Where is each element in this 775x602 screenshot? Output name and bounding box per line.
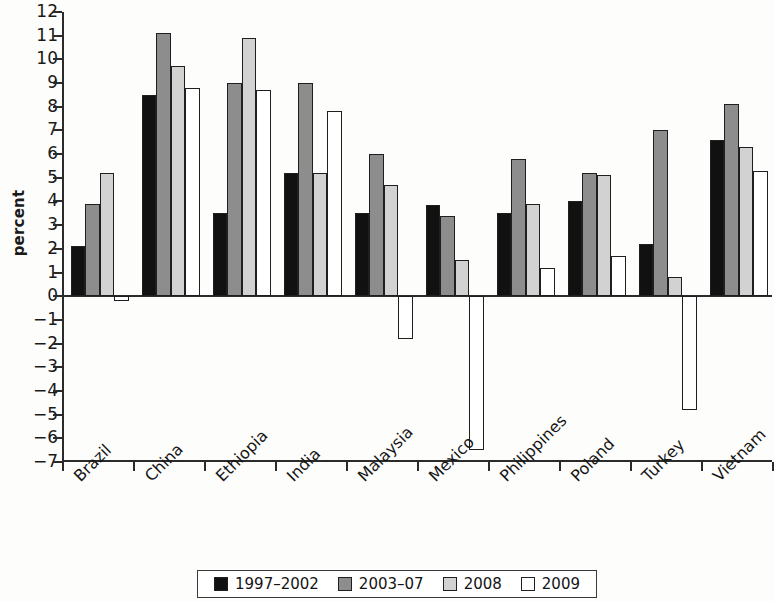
x-tick-mark (701, 462, 703, 471)
bar-group (142, 12, 200, 462)
chart-legend: 1997–20022003–0720082009 (197, 570, 597, 598)
bar (653, 130, 668, 296)
bar (526, 204, 541, 296)
x-tick-mark (204, 462, 206, 471)
bar (242, 38, 257, 296)
legend-item[interactable]: 2009 (521, 575, 580, 593)
bar (85, 204, 100, 296)
bar-group (284, 12, 342, 462)
bar (597, 175, 612, 296)
bar (398, 296, 413, 339)
bar (156, 33, 171, 296)
bar (227, 83, 242, 296)
x-tick-mark (346, 462, 348, 471)
bar (384, 185, 399, 296)
bar (455, 260, 470, 297)
y-tick-mark (53, 200, 62, 202)
bar-group (355, 12, 413, 462)
bar (724, 104, 739, 296)
x-tick-mark (133, 462, 135, 471)
y-tick-mark (53, 319, 62, 321)
bar (753, 171, 768, 297)
legend-item[interactable]: 2003–07 (338, 575, 424, 593)
y-tick-mark (53, 343, 62, 345)
bar-group (426, 12, 484, 462)
bar (114, 296, 129, 301)
bar (284, 173, 299, 296)
bar (256, 90, 271, 296)
y-tick-mark (53, 58, 62, 60)
y-tick-mark (53, 295, 62, 297)
bar (213, 213, 228, 296)
y-tick-mark (53, 106, 62, 108)
legend-swatch (521, 577, 535, 591)
bar (582, 173, 597, 296)
y-tick-mark (53, 366, 62, 368)
bar (710, 140, 725, 296)
legend-item[interactable]: 2008 (443, 575, 502, 593)
legend-swatch (443, 577, 457, 591)
bar (540, 268, 555, 296)
bar (369, 154, 384, 296)
bar (71, 246, 86, 296)
bar (313, 173, 328, 296)
bar (469, 296, 484, 450)
y-tick-mark (53, 153, 62, 155)
y-axis-line (62, 12, 64, 462)
bar (426, 205, 441, 296)
x-tick-mark (488, 462, 490, 471)
legend-label: 2009 (542, 575, 580, 593)
y-tick-mark (53, 11, 62, 13)
bar (511, 159, 526, 296)
legend-swatch (214, 577, 228, 591)
y-tick-mark (53, 390, 62, 392)
legend-swatch (338, 577, 352, 591)
legend-label: 2008 (464, 575, 502, 593)
y-tick-mark (53, 35, 62, 37)
bar (568, 201, 583, 296)
y-tick-mark (53, 437, 62, 439)
legend-item[interactable]: 1997–2002 (214, 575, 319, 593)
chart-figure: percent 1211109876543210−1−2−3−4−5−6−7 B… (0, 0, 775, 602)
bar (497, 213, 512, 296)
bar (355, 213, 370, 296)
y-tick-mark (53, 82, 62, 84)
bar-group (213, 12, 271, 462)
bar (171, 66, 186, 296)
x-tick-mark (772, 462, 774, 471)
bar (639, 244, 654, 296)
y-tick-mark (53, 224, 62, 226)
bar (100, 173, 115, 296)
x-tick-mark (417, 462, 419, 471)
bar-group (497, 12, 555, 462)
bar-group (568, 12, 626, 462)
plot-area: 1211109876543210−1−2−3−4−5−6−7 (62, 12, 772, 462)
bar (611, 256, 626, 296)
bar-group (639, 12, 697, 462)
bar (440, 216, 455, 297)
bar-group (71, 12, 129, 462)
y-tick-mark (53, 129, 62, 131)
y-tick-mark (53, 272, 62, 274)
x-tick-mark (559, 462, 561, 471)
y-tick-mark (53, 461, 62, 463)
bar (185, 88, 200, 296)
bar (142, 95, 157, 296)
bar (682, 296, 697, 410)
y-axis-title: percent (10, 178, 28, 268)
legend-label: 1997–2002 (235, 575, 319, 593)
x-tick-mark (275, 462, 277, 471)
bar (739, 147, 754, 296)
bar (327, 111, 342, 296)
x-tick-mark (62, 462, 64, 471)
y-tick-mark (53, 414, 62, 416)
bar (668, 277, 683, 296)
x-tick-mark (630, 462, 632, 471)
bar (298, 83, 313, 296)
y-tick-mark (53, 248, 62, 250)
bar-group (710, 12, 768, 462)
y-tick-mark (53, 177, 62, 179)
legend-label: 2003–07 (359, 575, 424, 593)
